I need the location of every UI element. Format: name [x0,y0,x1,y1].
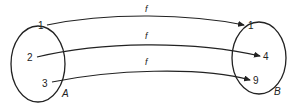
function-mapping-diagram: 1 2 3 A 1 4 9 B f f f [0,0,290,103]
mappings: f f f [37,4,260,82]
mapping-arrow-1-to-1 [47,16,244,25]
set-b-element-1: 1 [248,20,254,31]
set-a-element-3: 3 [42,78,48,89]
set-b-ellipse [232,22,286,94]
mapping-label-f-2: f [145,31,149,41]
set-b-element-9: 9 [253,75,259,86]
set-b-label: B [274,86,281,97]
set-b: 1 4 9 B [232,20,286,97]
set-a-element-2: 2 [27,52,33,63]
mapping-label-f-1: f [145,4,149,14]
mapping-label-f-3: f [145,57,149,67]
set-a-ellipse [11,26,65,102]
mapping-arrow-3-to-9 [52,71,250,82]
set-a-element-1: 1 [38,20,44,31]
set-b-element-4: 4 [263,51,269,62]
mapping-arrow-2-to-4 [37,45,260,57]
set-a-label: A [61,88,69,99]
set-a: 1 2 3 A [11,20,69,102]
